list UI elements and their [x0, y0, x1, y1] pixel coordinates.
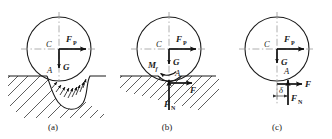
ground-hatch-a: [0, 72, 116, 139]
applied-force-label-b: F: [175, 34, 182, 44]
center-label-b: C: [156, 39, 162, 49]
mechanics-figure: F P G C A (a): [0, 0, 332, 139]
moment-sub-b: f: [156, 66, 159, 72]
contact-label-c: A: [283, 66, 290, 76]
normal-force-sub-b: N: [171, 105, 176, 111]
panel-b: F P G C M f A F F N (b): [112, 12, 224, 132]
normal-force-label-c: F: [290, 93, 297, 103]
center-label-a: C: [46, 39, 52, 49]
friction-label-c: F: [304, 79, 311, 89]
offset-dimension-c: δ: [277, 84, 288, 100]
friction-label-b: F: [189, 85, 196, 95]
weight-label-a: G: [63, 62, 70, 72]
applied-force-label-a: F: [65, 34, 72, 44]
panel-caption-b: (b): [162, 122, 173, 132]
normal-force-sub-c: N: [298, 99, 303, 105]
ground-deformed-a: [0, 72, 116, 139]
panel-c: F P G C A F F N δ (c): [239, 12, 315, 132]
weight-label-b: G: [173, 57, 180, 67]
figure-root: F P G C A (a): [0, 0, 332, 139]
offset-label-c: δ: [279, 85, 284, 95]
moment-couple-b: [161, 72, 177, 76]
panel-caption-a: (a): [48, 122, 58, 132]
contact-label-a: A: [46, 65, 53, 75]
center-label-c: C: [264, 39, 270, 49]
normal-force-label-b: F: [163, 99, 170, 109]
applied-force-sub-b: P: [183, 40, 187, 46]
panel-a: F P G C A (a): [0, 12, 116, 139]
panel-caption-c: (c): [272, 122, 282, 132]
applied-force-sub-a: P: [73, 40, 77, 46]
applied-force-sub-c: P: [291, 40, 295, 46]
contact-pressure-arrows-a: [52, 79, 86, 98]
contact-label-b: A: [174, 68, 181, 78]
applied-force-label-c: F: [283, 34, 290, 44]
